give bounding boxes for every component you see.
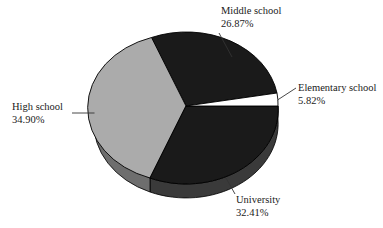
leader-line-elementary-school [278, 88, 297, 100]
slice-label-high-school: High school 34.90% [12, 101, 63, 126]
slice-label-middle-school-value: 26.87% [221, 18, 281, 31]
slice-label-elementary-school-name: Elementary school [298, 82, 376, 95]
slice-label-university-value: 32.41% [236, 207, 280, 220]
pie-top-faces [88, 32, 278, 184]
slice-label-high-school-name: High school [12, 101, 63, 114]
slice-label-elementary-school: Elementary school 5.82% [298, 82, 376, 107]
pie-chart-figure: Middle school 26.87% Elementary school 5… [0, 0, 383, 228]
slice-label-university-name: University [236, 194, 280, 207]
slice-label-high-school-value: 34.90% [12, 114, 63, 127]
slice-label-middle-school-name: Middle school [221, 5, 281, 18]
slice-label-middle-school: Middle school 26.87% [221, 5, 281, 30]
slice-label-university: University 32.41% [236, 194, 280, 219]
slice-label-elementary-school-value: 5.82% [298, 95, 376, 108]
